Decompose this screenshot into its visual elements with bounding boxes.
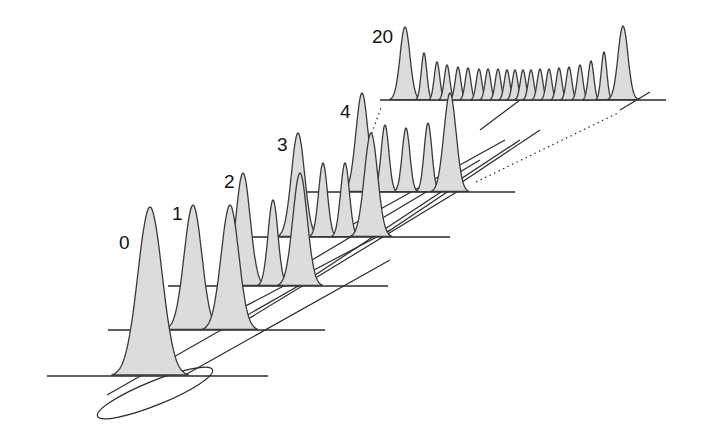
distribution-peak — [309, 163, 337, 237]
distribution-peak — [257, 200, 289, 286]
step-label-3: 3 — [277, 135, 288, 154]
distribution-peak — [389, 27, 421, 100]
diagram-stage: 2043210 — [0, 0, 711, 429]
distribution-peak — [595, 52, 613, 100]
connector-line — [480, 100, 520, 130]
step-label-2: 2 — [224, 172, 235, 191]
step-20 — [380, 26, 666, 100]
wave-packet-diagram — [0, 0, 711, 429]
dotted-connector — [476, 112, 620, 182]
step-label-1: 1 — [172, 204, 183, 223]
step-label-0: 0 — [119, 233, 130, 252]
step-label-20: 20 — [372, 27, 393, 46]
step-3 — [230, 133, 450, 237]
distribution-peak — [607, 26, 639, 100]
distribution-peak — [394, 128, 419, 192]
step-label-4: 4 — [340, 102, 351, 121]
distribution-peak — [415, 53, 433, 100]
